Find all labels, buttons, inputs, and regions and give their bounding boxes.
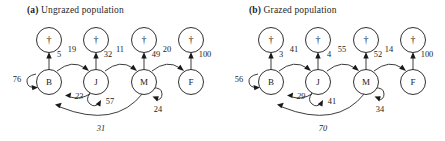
panel-b-graph: † † † † B J M [222,0,445,141]
flow-label-J-M: 55 [338,45,346,54]
stage-node-J: J [84,70,109,95]
stage-node-F-label: F [188,77,193,87]
flow-label-M-stasis: 34 [376,105,385,114]
death-node-M: † [354,28,379,53]
stage-node-M-label: M [362,77,370,87]
flow-label-B-stasis: 76 [13,75,21,84]
death-node-B: † [259,28,284,53]
mortality-edge-B [46,52,51,70]
stage-node-M: M [354,70,379,95]
progression-edge-B-J [57,64,89,71]
stasis-loop-J [88,93,102,107]
mortality-edge-F [188,52,193,70]
death-node-J: † [306,28,331,53]
death-node-B-label: † [269,34,274,45]
stage-node-J-label: J [94,77,98,87]
death-node-J-label: † [94,34,99,45]
figure-canvas: (a) Ungrazed population [0,0,445,141]
death-node-M-label: † [364,34,369,45]
death-node-J-label: † [316,34,321,45]
flow-label-B-J: 19 [68,45,76,54]
stage-node-J: J [306,70,331,95]
flow-label-M-F: 14 [385,45,394,54]
progression-edge-M-F [374,64,406,71]
panel-a-graph: † † † † B J [0,0,223,141]
death-node-F-label: † [189,34,194,45]
stage-node-B: B [37,70,62,95]
death-node-F-label: † [411,34,416,45]
death-node-J: † [84,28,109,53]
stage-node-B-label: B [268,77,274,87]
panel-ungrazed: (a) Ungrazed population [0,0,223,141]
flow-label-B-death: 3 [279,50,283,59]
stage-node-F: F [179,70,204,95]
death-node-M-label: † [142,34,147,45]
flow-label-F-death: 100 [199,50,212,59]
mortality-edge-J [93,52,98,70]
mortality-edge-B [268,52,273,70]
flow-label-B-death: 5 [57,50,61,59]
progression-edge-J-M [327,64,359,71]
flow-label-J-B: 29 [297,92,306,101]
mortality-edge-M [141,52,146,70]
mortality-edge-F [410,52,415,70]
death-node-B-label: † [47,34,52,45]
stage-node-M: M [132,70,157,95]
progression-edge-M-F [152,64,184,71]
flow-label-J-stasis: 41 [328,97,336,106]
progression-edge-J-M [105,64,137,71]
stage-node-M-label: M [140,77,148,87]
stage-node-J-label: J [316,77,320,87]
mortality-edge-J [315,52,320,70]
flow-label-M-death: 49 [152,50,160,59]
flow-label-M-F: 20 [163,45,171,54]
flow-label-F-death: 100 [421,50,434,59]
death-node-F: † [401,28,426,53]
death-node-F: † [179,28,204,53]
flow-label-B-J: 41 [290,45,298,54]
stasis-loop-J [310,93,324,107]
flow-label-B-stasis: 56 [235,75,243,84]
flow-label-J-death: 32 [104,50,112,59]
flow-label-J-B: 23 [75,92,83,101]
progression-edge-B-J [279,64,311,71]
stage-node-F-label: F [410,77,415,87]
panel-grazed: (b) Grazed population [222,0,445,141]
flow-label-J-death: 4 [327,50,332,59]
death-node-M: † [132,28,157,53]
flow-label-J-stasis: 57 [106,97,114,106]
death-node-B: † [37,28,62,53]
flow-label-J-M: 11 [116,45,124,54]
flow-label-M-stasis: 24 [154,105,163,114]
mortality-edge-M [363,52,368,70]
stage-node-B-label: B [46,77,52,87]
flow-label-M-B: 31 [96,124,105,133]
stage-node-B: B [259,70,284,95]
flow-label-M-B: 70 [319,124,328,133]
stage-node-F: F [401,70,426,95]
flow-label-M-death: 52 [374,50,382,59]
